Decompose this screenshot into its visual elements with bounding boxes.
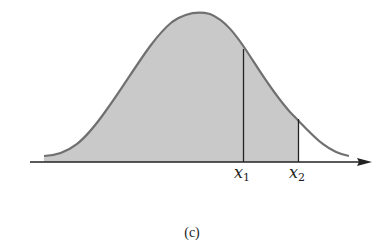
x1-label: x1	[234, 163, 250, 184]
x2-label: x2	[289, 163, 305, 184]
figure-caption: (c)	[184, 225, 200, 241]
x-axis-arrow-icon	[357, 158, 372, 166]
normal-curve-figure: x1 x2 (c)	[0, 0, 383, 244]
